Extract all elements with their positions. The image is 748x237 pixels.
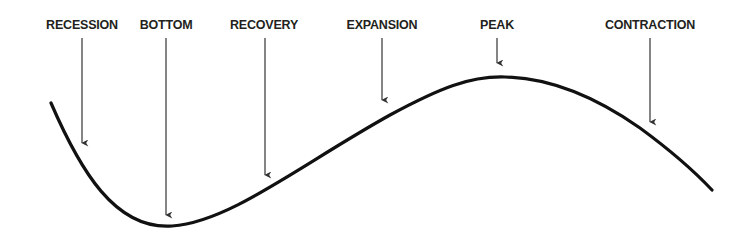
phase-arrows xyxy=(82,38,650,215)
label-bottom: BOTTOM xyxy=(140,18,193,32)
label-recovery: RECOVERY xyxy=(230,18,298,32)
cycle-graphic xyxy=(0,0,748,237)
label-contraction: CONTRACTION xyxy=(605,18,695,32)
label-recession: RECESSION xyxy=(46,18,118,32)
label-peak: PEAK xyxy=(480,18,514,32)
label-expansion: EXPANSION xyxy=(347,18,418,32)
